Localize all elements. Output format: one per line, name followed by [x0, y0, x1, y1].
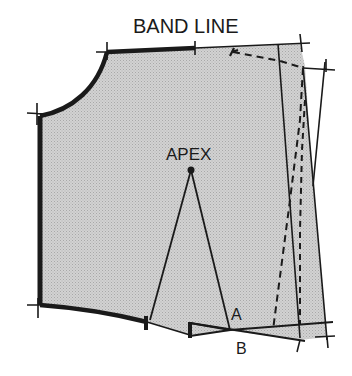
point-a-label: A — [231, 306, 242, 323]
apex-label: APEX — [166, 145, 211, 164]
pattern-diagram: BAND LINE APEX A B — [0, 0, 352, 376]
band-line-label: BAND LINE — [133, 15, 239, 37]
bodice-panel-fill — [40, 44, 327, 340]
apex-point — [188, 167, 195, 174]
extension-right-line — [313, 62, 325, 186]
point-b-label: B — [236, 340, 247, 357]
